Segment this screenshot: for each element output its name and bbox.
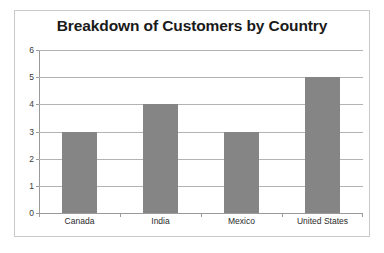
- bar: [305, 77, 341, 213]
- plot-area: 0123456: [39, 50, 363, 213]
- y-axis-tick-label: 4: [29, 100, 34, 109]
- bar: [62, 132, 98, 214]
- x-axis-category-label: Mexico: [201, 217, 282, 226]
- y-axis-tick-label: 6: [29, 46, 34, 55]
- x-axis-category-label: United States: [282, 217, 363, 226]
- chart-title: Breakdown of Customers by Country: [15, 17, 369, 35]
- chart-container: Breakdown of Customers by Country 012345…: [14, 10, 370, 237]
- bar: [224, 132, 260, 214]
- y-axis-tick-label: 1: [29, 182, 34, 191]
- y-axis-tick-label: 2: [29, 154, 34, 163]
- x-axis-category-label: Canada: [39, 217, 120, 226]
- y-axis-tick-label: 3: [29, 127, 34, 136]
- x-axis-labels: CanadaIndiaMexicoUnited States: [39, 215, 363, 231]
- bar-series: [39, 50, 363, 213]
- y-axis-tick-label: 5: [29, 73, 34, 82]
- y-axis-tick-label: 0: [29, 209, 34, 218]
- bar: [143, 104, 179, 213]
- x-axis-category-label: India: [120, 217, 201, 226]
